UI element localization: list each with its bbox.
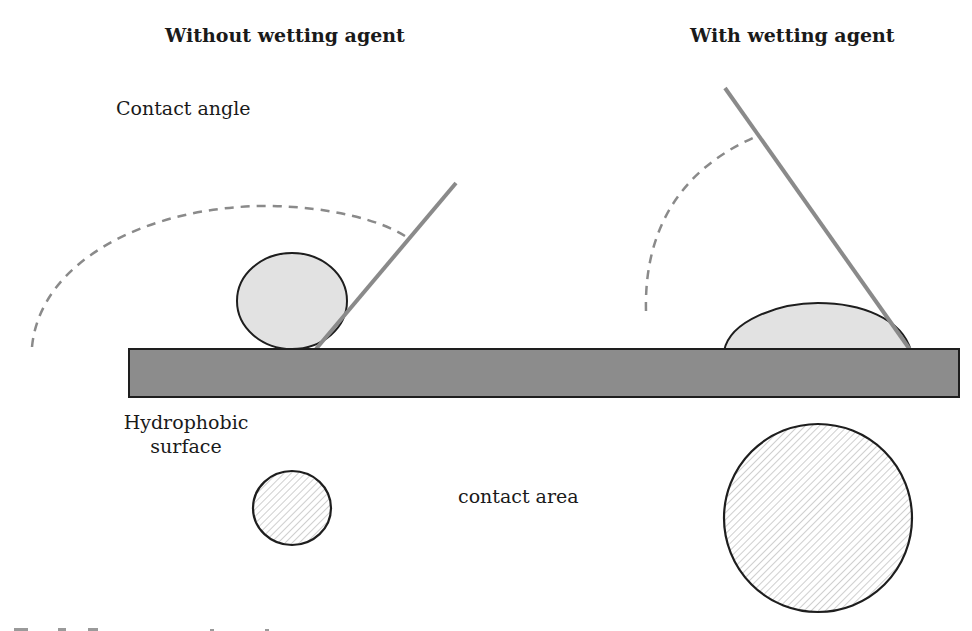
surface-label-line2: surface — [116, 435, 256, 457]
contact-angle-label: Contact angle — [116, 97, 251, 119]
surface-label: Hydrophobic surface — [116, 411, 256, 457]
title-without-wetting-agent: Without wetting agent — [165, 24, 405, 46]
surface-label-line1: Hydrophobic — [116, 411, 256, 433]
contact-area-label: contact area — [458, 485, 579, 507]
contact-area-large — [724, 424, 912, 612]
tangent-line-left — [316, 183, 456, 349]
contact-angle-arc-right — [646, 137, 755, 311]
hydrophobic-substrate — [129, 349, 959, 397]
wetting-diagram — [0, 0, 972, 631]
contact-angle-arc-left — [32, 206, 405, 347]
title-with-wetting-agent: With wetting agent — [690, 24, 895, 46]
contact-area-small — [253, 471, 331, 545]
